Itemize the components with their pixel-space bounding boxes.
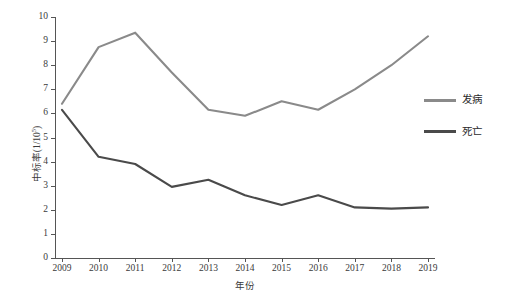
x-tick-mark	[172, 258, 173, 262]
x-tick-mark	[318, 258, 319, 262]
legend-item[interactable]: 死亡	[424, 127, 482, 138]
x-tick-label: 2017	[345, 264, 364, 274]
y-tick-label: 6	[43, 109, 48, 119]
y-tick-mark	[51, 258, 55, 259]
series-line-死亡	[62, 110, 428, 209]
x-tick-mark	[428, 258, 429, 262]
legend: 发病死亡	[424, 95, 482, 137]
x-tick-mark	[99, 258, 100, 262]
y-tick-label: 1	[43, 229, 48, 239]
x-tick-label: 2012	[162, 264, 181, 274]
x-tick-mark	[62, 258, 63, 262]
line-chart: 中标率(1/105) 年份 012345678910 2009201020112…	[0, 0, 513, 307]
x-tick-label: 2009	[53, 264, 72, 274]
y-tick-label: 3	[43, 181, 48, 191]
x-tick-label: 2014	[236, 264, 255, 274]
x-tick-mark	[208, 258, 209, 262]
legend-line-swatch-icon	[424, 99, 456, 102]
legend-item[interactable]: 发病	[424, 95, 482, 106]
x-tick-label: 2016	[309, 264, 328, 274]
y-tick-label: 10	[39, 12, 49, 22]
x-tick-mark	[282, 258, 283, 262]
x-tick-mark	[391, 258, 392, 262]
x-tick-label: 2019	[419, 264, 438, 274]
y-tick-label: 0	[43, 253, 48, 263]
y-axis-title: 中标率(1/105)	[29, 125, 43, 181]
legend-line-swatch-icon	[424, 130, 456, 133]
x-tick-label: 2018	[382, 264, 401, 274]
y-tick-label: 9	[43, 36, 48, 46]
x-tick-label: 2011	[126, 264, 145, 274]
x-axis-title: 年份	[235, 278, 255, 292]
x-tick-label: 2015	[272, 264, 291, 274]
plot-area: 012345678910 200920102011201220132014201…	[55, 17, 435, 258]
y-axis-title-main: 中标率(1/10	[32, 132, 42, 182]
legend-label: 死亡	[462, 127, 482, 138]
y-tick-label: 7	[43, 85, 48, 95]
y-tick-label: 5	[43, 133, 48, 143]
x-tick-mark	[135, 258, 136, 262]
y-axis-title-tail: )	[32, 125, 42, 128]
series-layer	[55, 17, 435, 258]
y-tick-label: 2	[43, 205, 48, 215]
legend-label: 发病	[462, 95, 482, 106]
y-tick-label: 8	[43, 60, 48, 70]
y-tick-label: 4	[43, 157, 48, 167]
x-tick-label: 2013	[199, 264, 218, 274]
series-line-发病	[62, 33, 428, 116]
x-tick-mark	[245, 258, 246, 262]
x-tick-mark	[355, 258, 356, 262]
x-tick-label: 2010	[89, 264, 108, 274]
